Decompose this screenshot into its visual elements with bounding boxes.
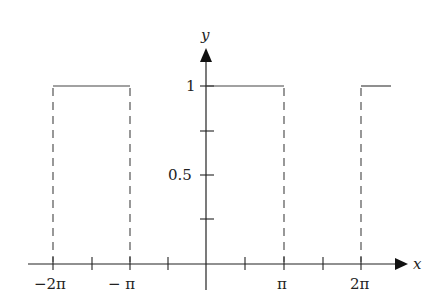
- y-axis: [200, 48, 214, 290]
- square-wave-plot: y x 1 0.5 −2π − π π 2π: [0, 0, 432, 302]
- x-axis-label: x: [413, 255, 422, 273]
- x-axis-arrow-icon: [395, 258, 408, 270]
- x-tick-label-negpi: − π: [108, 275, 135, 293]
- x-tick-label-pi: π: [277, 275, 287, 293]
- x-tick-label-2pi: 2π: [350, 275, 370, 293]
- y-tick-label-0-5: 0.5: [168, 166, 192, 184]
- x-axis: [28, 257, 408, 270]
- y-axis-arrow-icon: [200, 48, 212, 62]
- plot-svg: y x 1 0.5 −2π − π π 2π: [0, 0, 432, 302]
- x-tick-label-neg2pi: −2π: [34, 275, 66, 293]
- y-tick-label-1: 1: [186, 77, 196, 95]
- y-axis-label: y: [200, 26, 210, 44]
